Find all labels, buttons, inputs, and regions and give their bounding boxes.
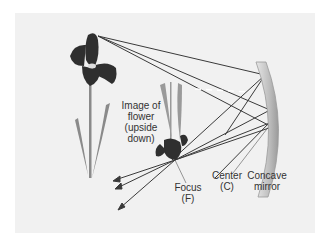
focus-label: Focus (F) — [168, 182, 208, 204]
concave-mirror-label: Concave mirror — [242, 170, 292, 192]
flower-object-icon — [70, 33, 117, 178]
focus-pointer — [175, 160, 186, 183]
diverging-rays — [113, 160, 175, 210]
center-pointer — [233, 125, 270, 173]
image-of-flower-label: Image of flower (upside down) — [113, 100, 169, 144]
center-label: Center (C) — [207, 170, 247, 192]
